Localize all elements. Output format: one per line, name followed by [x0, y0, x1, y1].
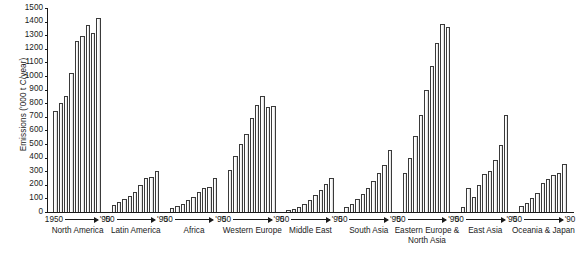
bar [228, 170, 232, 212]
bar [112, 205, 116, 212]
bar [308, 200, 312, 212]
bar [408, 158, 412, 212]
bar [329, 178, 333, 212]
y-tick-label: 200 [29, 179, 43, 188]
range-arrow-icon [349, 219, 388, 220]
range-arrow-icon [175, 219, 214, 220]
bar [53, 111, 57, 212]
bar [324, 184, 328, 212]
bar [413, 136, 417, 212]
y-tick-label: 500 [29, 139, 43, 148]
bar-group-bars [403, 8, 452, 212]
y-tick-label: 1200 [25, 43, 43, 52]
range-end-label: '90 [565, 215, 576, 225]
bar-group [53, 8, 102, 212]
bar [562, 164, 566, 212]
bar-group-bars [228, 8, 277, 212]
plot-area [48, 8, 574, 212]
bar [260, 96, 264, 212]
bar [96, 18, 100, 212]
bar [266, 107, 270, 212]
bar [313, 195, 317, 212]
bar-group [286, 8, 335, 212]
bar [91, 33, 95, 212]
bar [86, 25, 90, 212]
bar [551, 175, 555, 212]
bar [477, 185, 481, 212]
bar [239, 144, 243, 212]
bar [59, 103, 63, 212]
bar [319, 190, 323, 212]
range-start-label: '50 [511, 215, 522, 225]
bar [535, 193, 539, 212]
y-tick-label: 1000 [25, 71, 43, 80]
bar [207, 187, 211, 212]
bar [149, 177, 153, 212]
range-start-label: '50 [337, 215, 348, 225]
bar-group [519, 8, 568, 212]
range-start-label: '50 [279, 215, 290, 225]
bar [430, 66, 434, 212]
y-tick-label: 1500 [25, 3, 43, 12]
range-start-label: '50 [162, 215, 173, 225]
bar [461, 207, 465, 212]
bar [377, 173, 381, 212]
y-tick-label: 100 [29, 193, 43, 202]
bar [186, 200, 190, 212]
bar-group [170, 8, 219, 212]
bar-group-bars [112, 8, 161, 212]
bar [488, 171, 492, 212]
bar [175, 206, 179, 212]
bar [382, 165, 386, 212]
bar [355, 199, 359, 212]
bar [499, 145, 503, 212]
bar-group-bars [170, 8, 219, 212]
range-arrow-icon [408, 219, 447, 220]
bar [128, 196, 132, 212]
range-start-label: '50 [104, 215, 115, 225]
bar [64, 96, 68, 212]
bar [255, 105, 259, 212]
y-tick-label: 1400 [25, 16, 43, 25]
y-tick-label: 300 [29, 166, 43, 175]
range-start-label: '50 [220, 215, 231, 225]
bar [482, 174, 486, 212]
bar [350, 204, 354, 212]
bar-group-bars [53, 8, 102, 212]
bar [144, 178, 148, 212]
range-arrow-icon [466, 219, 505, 220]
range-start-label: '50 [453, 215, 464, 225]
bar [344, 207, 348, 212]
bar [472, 197, 476, 212]
bar-group [228, 8, 277, 212]
bar [117, 202, 121, 212]
bar [181, 204, 185, 212]
bar-group-bars [286, 8, 335, 212]
group-name-label: Oceania & Japan [506, 226, 581, 236]
bar-group [403, 8, 452, 212]
bar-group-bars [519, 8, 568, 212]
bar [271, 106, 275, 212]
bar [213, 178, 217, 212]
bar-group-bars [461, 8, 510, 212]
x-axis-line [47, 212, 574, 213]
y-tick-label: 600 [29, 125, 43, 134]
y-tick-label: 400 [29, 152, 43, 161]
bar [403, 173, 407, 212]
bar-group [112, 8, 161, 212]
range-arrow-icon [117, 219, 156, 220]
bar [388, 150, 392, 212]
bar [197, 192, 201, 212]
bar-group-bars [344, 8, 393, 212]
bar [244, 134, 248, 212]
y-tick-label: 700 [29, 111, 43, 120]
y-tick-label: 800 [29, 98, 43, 107]
range-arrow-icon [65, 219, 98, 220]
range-start-label: 1950 [45, 215, 63, 225]
bar [446, 27, 450, 212]
bar [138, 185, 142, 212]
bar-group [344, 8, 393, 212]
range-arrow-icon [524, 219, 563, 220]
bar [75, 41, 79, 212]
bar [504, 115, 508, 212]
